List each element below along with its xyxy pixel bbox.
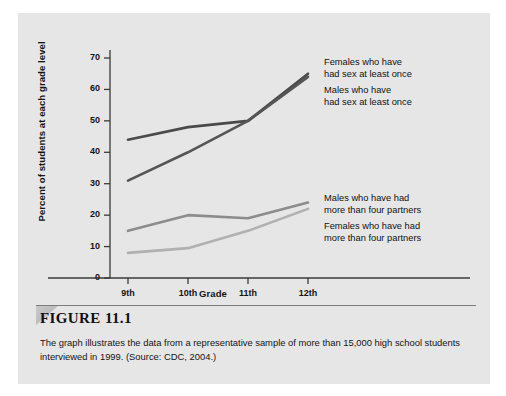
chart-plot-area: Percent of students at each grade level … (18, 13, 490, 303)
y-axis-tick-label: 30 (76, 178, 100, 188)
y-axis-tick-label: 70 (76, 52, 100, 62)
y-axis-title: Percent of students at each grade level (36, 52, 47, 222)
figure-caption-block: FIGURE 11.1 The graph illustrates the da… (18, 305, 490, 384)
series-annotation-0: Females who have had sex at least once (324, 57, 412, 80)
x-axis-tick-label: 10th (168, 288, 208, 298)
series-annotation-3: Females who have had more than four part… (324, 221, 421, 244)
y-axis-tick-label: 50 (76, 115, 100, 125)
series-annotation-1: Males who have had sex at least once (324, 85, 412, 108)
series-annotation-2: Males who have had more than four partne… (324, 193, 421, 216)
y-axis-tick-label: 60 (76, 83, 100, 93)
series-line-2 (128, 203, 308, 231)
x-axis-tick-label: 12th (288, 288, 328, 298)
x-axis-tick-label: 11th (228, 288, 268, 298)
figure-container: Percent of students at each grade level … (18, 13, 490, 384)
chart-series (128, 74, 308, 253)
y-axis-tick-label: 20 (76, 209, 100, 219)
x-axis-tick-label: 9th (108, 288, 148, 298)
series-line-0 (128, 74, 308, 140)
series-line-1 (128, 77, 308, 181)
figure-number: FIGURE 11.1 (40, 310, 132, 327)
y-axis-tick-label: 0 (76, 272, 100, 282)
y-axis-tick-label: 10 (76, 241, 100, 251)
caption-divider (36, 305, 476, 306)
figure-caption-text: The graph illustrates the data from a re… (40, 336, 468, 364)
y-axis-tick-label: 40 (76, 146, 100, 156)
